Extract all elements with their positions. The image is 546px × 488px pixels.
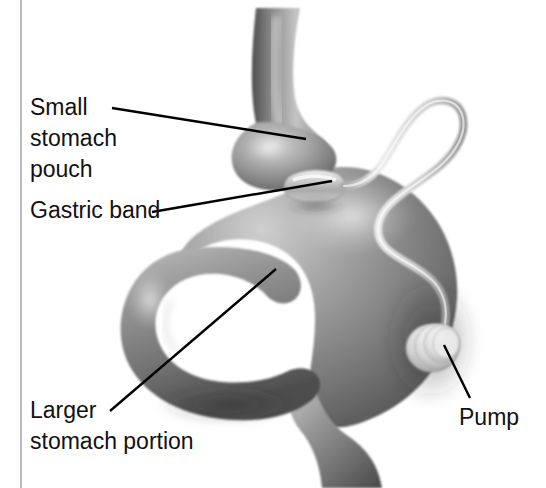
pump-highlight <box>433 330 449 342</box>
gastric-band-shape <box>284 170 345 202</box>
duodenum-shadow <box>156 386 296 422</box>
label-gastric-band: Gastric band <box>30 197 160 223</box>
diagram-canvas: Small stomach pouch Gastric band Larger … <box>0 0 546 488</box>
label-pump: Pump <box>459 404 519 430</box>
gastric-band-figure: Small stomach pouch Gastric band Larger … <box>0 0 546 488</box>
pouch-highlight <box>246 133 290 163</box>
band-constriction-shadow <box>286 198 346 214</box>
label-small-stomach-pouch-line2: stomach <box>30 125 117 151</box>
label-larger-stomach-portion-line2: stomach portion <box>30 428 194 454</box>
label-small-stomach-pouch-line3: pouch <box>30 156 93 182</box>
label-small-stomach-pouch-line1: Small <box>30 94 88 120</box>
label-larger-stomach-portion-line1: Larger <box>30 397 97 423</box>
duodenum-highlight <box>128 270 172 330</box>
